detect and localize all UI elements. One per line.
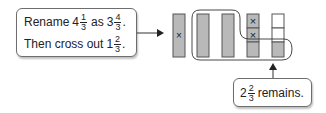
whole-bar [222, 14, 234, 57]
cross-mark-icon: × [176, 30, 182, 41]
result-callout: 2 23 remains. [233, 78, 312, 107]
denominator: 3 [248, 94, 255, 103]
whole-bar [197, 14, 209, 57]
text: remains. [258, 86, 304, 100]
fraction: 23 [248, 84, 255, 103]
thirds-bar-partially-crossed: × × [247, 14, 259, 57]
whole-bar-crossed: × [173, 14, 185, 57]
arrow-up-icon [269, 63, 277, 78]
numerator: 2 [248, 84, 255, 94]
result-line: 2 23 remains. [240, 82, 311, 104]
arrow-right-icon [137, 29, 164, 37]
thirds-bar [272, 14, 284, 57]
mixed-number-whole: 2 [240, 86, 247, 100]
cross-mark-icon: × [250, 15, 256, 27]
